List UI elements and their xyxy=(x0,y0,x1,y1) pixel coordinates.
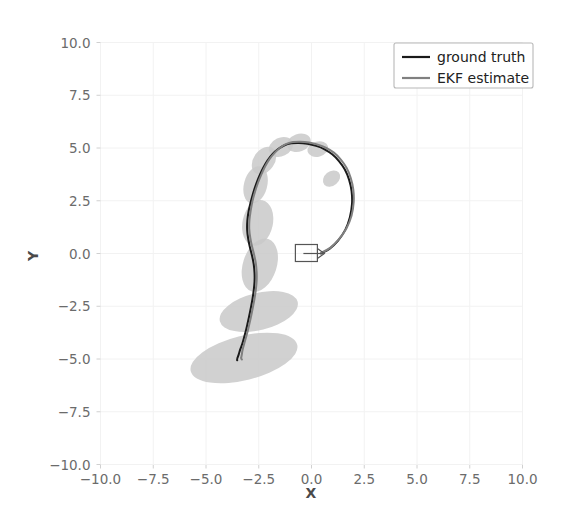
x-tick-label: −2.5 xyxy=(242,471,275,487)
figure-canvas: −10.0−7.5−5.0−2.50.02.55.07.510.010.07.5… xyxy=(0,0,578,522)
y-tick-label: −7.5 xyxy=(58,404,91,420)
x-axis-title: X xyxy=(306,485,317,501)
x-tick-label: 2.5 xyxy=(354,471,375,487)
y-tick-label: −10.0 xyxy=(49,457,90,473)
x-tick-label: −5.0 xyxy=(190,471,223,487)
y-tick-label: −5.0 xyxy=(58,351,91,367)
y-tick-label: 2.5 xyxy=(69,193,90,209)
legend[interactable]: ground truthEKF estimate xyxy=(394,43,533,88)
x-tick-label: −10.0 xyxy=(80,471,121,487)
y-tick-label: 5.0 xyxy=(69,140,90,156)
y-tick-label: 10.0 xyxy=(60,35,90,51)
x-tick-label: 10.0 xyxy=(507,471,537,487)
y-tick-label: −2.5 xyxy=(58,298,91,314)
chart-plot: −10.0−7.5−5.0−2.50.02.55.07.510.010.07.5… xyxy=(0,0,578,522)
legend-label-ground-truth: ground truth xyxy=(437,49,525,65)
x-tick-label: 5.0 xyxy=(406,471,427,487)
y-axis-title: Y xyxy=(25,250,41,262)
x-tick-label: −7.5 xyxy=(137,471,170,487)
y-tick-label: 7.5 xyxy=(69,87,90,103)
y-tick-label: 0.0 xyxy=(69,246,90,262)
legend-label-EKF-estimate: EKF estimate xyxy=(437,70,529,86)
x-tick-label: 7.5 xyxy=(459,471,480,487)
